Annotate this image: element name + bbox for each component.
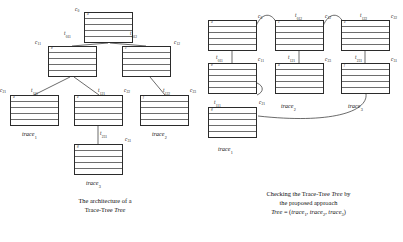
label-right-c21: c21: [259, 100, 265, 106]
trace-label-3-left: trace3: [86, 180, 100, 188]
node-row: [209, 132, 256, 137]
node-row: f: [342, 64, 389, 70]
node-row: f: [141, 96, 188, 102]
node-row: b: [49, 47, 96, 53]
trace-label-2-left: trace2: [152, 131, 166, 139]
edge-label-t122: t122: [163, 88, 170, 96]
formula-comma-1: ,: [307, 208, 309, 215]
node-right-c12: c: [275, 20, 324, 51]
right-caption-line2: the proposed approach: [221, 198, 396, 207]
trace-label-3-right: trace3: [348, 103, 362, 111]
edge-label-t012: t012: [130, 31, 137, 39]
node-row: [75, 120, 122, 125]
right-caption: Checking the Trace-Tree Tree by the prop…: [221, 189, 396, 219]
label-right-c11: c11: [258, 57, 264, 63]
node-row: e: [75, 96, 122, 102]
formula-trace-3: trace: [328, 208, 341, 215]
label-right-c21-top: c23: [325, 57, 331, 63]
node-c22: e: [74, 95, 123, 126]
node-row: d: [11, 96, 58, 102]
node-row: e: [342, 21, 389, 27]
edge-label-right-t121: t121: [288, 55, 295, 63]
node-head-letter: c: [278, 21, 280, 24]
label-right-c31: c31: [391, 57, 397, 63]
edge-label-right-t122: t122: [360, 13, 367, 21]
node-row: [276, 88, 323, 93]
label-c11: c11: [35, 40, 41, 46]
label-c12: c12: [174, 40, 180, 46]
node-row: [209, 45, 256, 50]
right-caption-tree-italic: Tree: [331, 190, 342, 197]
edge-label-t111: t111: [31, 88, 38, 96]
label-right-c12: c12: [325, 14, 331, 20]
node-right-c31: f: [341, 63, 390, 94]
node-row: [141, 120, 188, 125]
formula-trace-1: trace: [291, 208, 304, 215]
node-row: [342, 88, 389, 93]
node-right-c0: a: [208, 20, 257, 51]
figure-root: a c0 b c11 c c12 d c21: [0, 0, 403, 242]
node-row: [75, 169, 122, 174]
left-caption: The architecture of a Trace-Tree Tree: [30, 196, 180, 214]
node-c0: a: [84, 12, 133, 43]
node-head-letter: f: [143, 96, 144, 99]
node-c31: g: [74, 144, 123, 175]
node-row: [11, 120, 58, 125]
label-c23: c23: [190, 88, 196, 94]
left-caption-line2: Trace-Tree Tree: [30, 205, 180, 214]
node-head-letter: e: [344, 21, 346, 24]
trace-label-2-right: trace2: [281, 103, 295, 111]
formula-tree: Tree: [271, 208, 282, 215]
node-row: [85, 37, 132, 42]
node-right-c21: d: [275, 63, 324, 94]
node-row: d: [276, 64, 323, 70]
node-row: c: [276, 21, 323, 27]
label-right-c22: c22: [391, 14, 397, 20]
node-row: [276, 45, 323, 50]
node-row: c: [123, 47, 170, 53]
edge-label-t231: t231: [100, 131, 107, 139]
edge-label-right-t011: t011: [216, 55, 223, 63]
node-c12: c: [122, 46, 171, 77]
node-row: g: [209, 108, 256, 114]
label-c31: c31: [125, 137, 131, 143]
node-right-trace1-tail: g: [208, 107, 257, 138]
node-row: [209, 88, 256, 93]
formula-close: ): [344, 208, 346, 215]
node-head-letter: e: [77, 96, 79, 99]
node-row: a: [209, 21, 256, 27]
node-row: [123, 71, 170, 76]
node-c21: d: [10, 95, 59, 126]
node-head-letter: g: [77, 145, 79, 148]
right-caption-line3: Tree = (trace1, trace2, trace3): [221, 207, 396, 219]
node-c23: f: [140, 95, 189, 126]
node-head-letter: d: [278, 64, 280, 67]
node-row: b: [209, 64, 256, 70]
edge-label-right-t231: t231: [355, 55, 362, 63]
node-row: [342, 45, 389, 50]
edge-label-right-t012: t012: [295, 13, 302, 21]
node-head-letter: a: [87, 13, 89, 16]
label-right-c0: c0: [258, 14, 262, 20]
node-right-c11: b: [208, 63, 257, 94]
edge-label-right-t111: t111: [214, 100, 221, 108]
node-head-letter: g: [211, 108, 213, 111]
label-c22: c22: [124, 88, 130, 94]
node-c11: b: [48, 46, 97, 77]
node-row: g: [75, 145, 122, 151]
left-caption-tree-italic: Tree: [114, 206, 125, 213]
left-caption-line1: The architecture of a: [30, 196, 180, 205]
node-head-letter: f: [344, 64, 345, 67]
right-caption-line1: Checking the Trace-Tree Tree by: [221, 189, 396, 198]
trace-label-1-left: trace1: [22, 131, 36, 139]
node-right-c22: e: [341, 20, 390, 51]
node-head-letter: c: [125, 47, 127, 50]
label-c0: c0: [75, 7, 79, 13]
node-head-letter: d: [13, 96, 15, 99]
trace-label-1-right: trace1: [218, 146, 232, 154]
node-head-letter: a: [211, 21, 213, 24]
formula-comma-2: ,: [325, 208, 327, 215]
node-head-letter: b: [211, 64, 213, 67]
edge-label-t011: t011: [64, 31, 71, 39]
node-head-letter: b: [51, 47, 53, 50]
